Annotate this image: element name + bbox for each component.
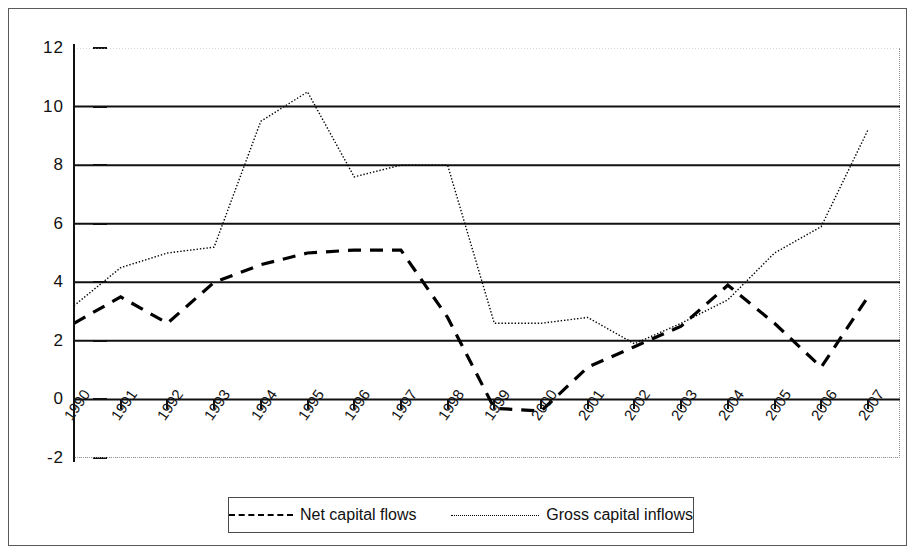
x-axis-tick-label: 2002 — [621, 387, 652, 423]
x-axis-tick-label: 1999 — [481, 387, 512, 423]
x-axis-tick-label: 1995 — [295, 387, 326, 423]
x-axis-tick-label: 1994 — [248, 387, 279, 423]
x-axis-tick-label: 1993 — [201, 387, 232, 423]
x-axis-tick-label: 1998 — [435, 387, 466, 423]
x-axis-tick-label: 2000 — [528, 387, 559, 423]
x-axis-tick-label: 1991 — [108, 387, 139, 423]
legend-entry-gross-capital-inflows: Gross capital inflows — [451, 507, 693, 523]
x-axis-tick-label: 2003 — [668, 387, 699, 423]
x-axis: 1990199119921993199419951996199719981999… — [0, 0, 921, 557]
legend-label-net-capital-flows: Net capital flows — [300, 507, 417, 523]
chart-legend: Net capital flows Gross capital inflows — [228, 497, 694, 533]
x-axis-tick-label: 1997 — [388, 387, 419, 423]
x-axis-tick-label: 2004 — [715, 387, 746, 423]
legend-entry-net-capital-flows: Net capital flows — [229, 507, 417, 523]
x-axis-tick-label: 1992 — [154, 387, 185, 423]
dotted-line-swatch-icon — [451, 515, 539, 516]
x-axis-tick-label: 1996 — [341, 387, 372, 423]
x-axis-tick-label: 2005 — [762, 387, 793, 423]
dashed-line-swatch-icon — [229, 514, 293, 516]
x-axis-tick-label: 2007 — [855, 387, 886, 423]
x-axis-tick-label: 2001 — [575, 387, 606, 423]
legend-label-gross-capital-inflows: Gross capital inflows — [546, 507, 693, 523]
x-axis-tick-label: 1990 — [61, 387, 92, 423]
x-axis-tick-label: 2006 — [808, 387, 839, 423]
chart-figure: 121086420-2 1990199119921993199419951996… — [0, 0, 921, 557]
